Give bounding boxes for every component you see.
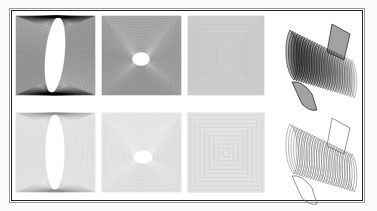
sweep-curve (133, 150, 153, 164)
nested-square (189, 114, 262, 190)
nested-square (202, 127, 250, 177)
nested-square (199, 125, 252, 180)
nested-square (225, 55, 226, 56)
nested-square (215, 141, 238, 165)
sweep-curve (132, 52, 150, 66)
panel-row2-tall-ellipse-sweep (15, 112, 96, 193)
nested-square (203, 129, 249, 176)
panel-row2-nested-squares (187, 112, 265, 193)
sweep-curve (44, 114, 66, 190)
nested-square (207, 133, 245, 173)
sweep-curve (43, 114, 68, 190)
nested-square (225, 151, 228, 154)
panel-row1-3d-swept-surface (272, 12, 362, 102)
sweep-curve (132, 51, 151, 66)
nested-square (194, 120, 257, 186)
nested-square (212, 138, 240, 167)
nested-square (198, 124, 254, 182)
sweep-curve (40, 114, 70, 191)
nested-square (191, 116, 262, 190)
panel-row1-nested-squares (187, 15, 265, 96)
sweep-curve (132, 149, 154, 165)
panel-row2-3d-swept-surface (272, 106, 362, 201)
sweep-curve (45, 114, 65, 190)
panel-row1-tall-ellipse-sweep (15, 15, 96, 96)
nested-square (223, 150, 228, 155)
nested-square (211, 137, 241, 169)
panel-row2-small-ellipse-sweep (101, 112, 182, 193)
panel-row1-small-ellipse-sweep (101, 15, 182, 96)
nested-square (220, 146, 233, 159)
nested-square (216, 142, 236, 163)
